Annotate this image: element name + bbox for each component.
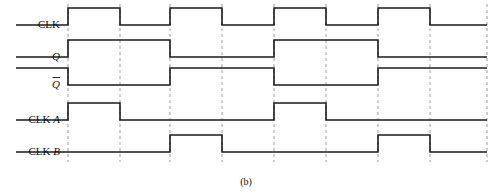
signal-label-q-bar: Q [52, 78, 60, 90]
timing-diagram-canvas: CLKQQCLK ACLK B (b) [0, 0, 499, 195]
label-base: CLK [29, 113, 54, 125]
qbar-glyph: Q [52, 78, 60, 90]
figure-caption: (b) [240, 176, 252, 188]
timing-diagram-figure: CLKQQCLK ACLK B (b) [0, 0, 499, 195]
label-suffix: A [52, 113, 60, 125]
signal-label-clk: CLK [38, 18, 60, 30]
q-glyph: Q [52, 50, 60, 62]
signal-label-q: Q [52, 50, 60, 62]
label-suffix: B [53, 145, 60, 157]
label-base: CLK [29, 145, 54, 157]
signal-label-clk-b: CLK B [29, 145, 61, 157]
signal-label-clk-a: CLK A [29, 113, 61, 125]
figure-background [0, 0, 499, 195]
